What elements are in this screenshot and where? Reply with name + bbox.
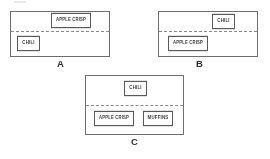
item-box-apple-crisp: APPLE CRISP: [51, 13, 91, 28]
figure-canvas: APPLE CRISPCHILIACHILIAPPLE CRISPBCHILIA…: [0, 0, 270, 159]
panel-caption-a: A: [57, 59, 64, 69]
item-box-chili: CHILI: [124, 81, 147, 96]
item-box-apple-crisp: APPLE CRISP: [168, 36, 208, 51]
dashed-divider-line: [159, 31, 257, 32]
dashed-divider-line: [11, 31, 109, 32]
panel-a: APPLE CRISPCHILI: [10, 11, 110, 57]
item-box-chili: CHILI: [17, 36, 40, 51]
item-box-chili: CHILI: [212, 14, 235, 29]
item-box-muffins: MUFFINS: [143, 111, 173, 126]
item-box-apple-crisp: APPLE CRISP: [94, 111, 134, 126]
panel-b: CHILIAPPLE CRISP: [158, 11, 258, 57]
panel-caption-c: C: [131, 137, 138, 147]
panel-caption-b: B: [196, 59, 203, 69]
scan-artifact: [14, 1, 26, 3]
panel-c: CHILIAPPLE CRISPMUFFINS: [85, 75, 184, 135]
dashed-divider-line: [86, 105, 183, 106]
